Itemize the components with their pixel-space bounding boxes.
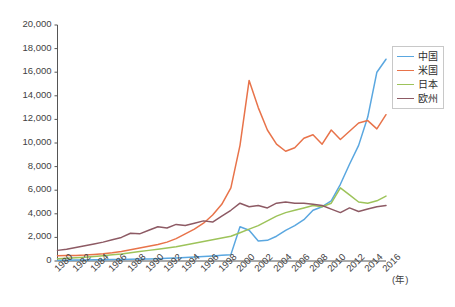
legend: 中国米国日本欧州: [392, 46, 444, 109]
legend-item[interactable]: 欧州: [397, 93, 438, 104]
legend-color-swatch: [397, 84, 414, 85]
legend-label: 欧州: [418, 93, 438, 104]
data-series-group: [58, 59, 387, 260]
y-axis-tick-label: 12,000: [22, 113, 51, 123]
line-chart: 02,0004,0006,0008,00010,00012,00014,0001…: [0, 0, 455, 307]
y-axis-tick-label: 14,000: [22, 90, 51, 100]
legend-label: 米国: [418, 65, 438, 76]
x-axis-unit-label: (年): [392, 272, 408, 286]
legend-item[interactable]: 米国: [397, 65, 438, 76]
legend-color-swatch: [397, 70, 414, 71]
y-axis-tick-label: 4,000: [28, 208, 52, 218]
legend-label: 中国: [418, 51, 438, 62]
legend-label: 日本: [418, 79, 438, 90]
y-axis-tick-label: 6,000: [28, 184, 52, 194]
legend-item[interactable]: 日本: [397, 79, 438, 90]
series-line-2: [58, 188, 387, 259]
y-axis-tick-label: 0: [46, 255, 51, 265]
y-axis-tick-label: 20,000: [22, 19, 51, 29]
series-line-3: [58, 202, 387, 250]
series-line-1: [58, 80, 387, 255]
y-axis-tick-label: 10,000: [22, 137, 51, 147]
legend-color-swatch: [397, 98, 414, 99]
y-axis-tick-label: 2,000: [28, 231, 52, 241]
y-axis-tick-label: 8,000: [28, 161, 52, 171]
legend-color-swatch: [397, 56, 414, 57]
series-line-0: [58, 59, 387, 260]
legend-item[interactable]: 中国: [397, 51, 438, 62]
y-axis-tick-label: 16,000: [22, 66, 51, 76]
y-axis-tick-label: 18,000: [22, 43, 51, 53]
axis-lines: [55, 25, 387, 261]
